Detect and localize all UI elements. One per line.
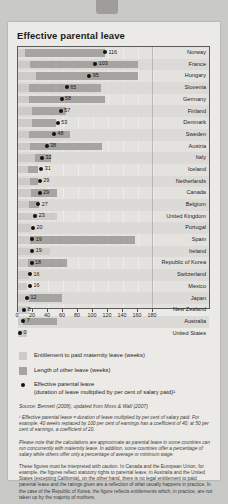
bar: [18, 143, 102, 151]
bar-segment-other-leave: [29, 131, 70, 139]
effective-leave-marker: [103, 50, 107, 54]
footnote-1: ¹ Effective parental leave = duration of…: [19, 415, 215, 434]
bar-segment-other-leave: [30, 236, 135, 244]
axis-tick-label: 60: [59, 312, 65, 318]
chart-notes: Source: Bennett (2008), updated from Mos…: [19, 403, 215, 504]
effective-leave-marker: [28, 272, 32, 276]
effective-leave-marker: [60, 97, 64, 101]
bar-segment-maternity: [18, 271, 29, 279]
axis-tick-label: 100: [88, 312, 97, 318]
bar: [18, 283, 27, 291]
axis-tick-label: 20: [29, 312, 35, 318]
effective-leave-marker: [25, 296, 29, 300]
bar: [18, 119, 56, 127]
bar: [18, 213, 57, 221]
data-value-label: 65: [70, 84, 76, 90]
data-value-label: 27: [42, 201, 48, 207]
effective-leave-marker: [31, 226, 35, 230]
effective-leave-marker: [59, 109, 63, 113]
category-label: United States: [172, 330, 206, 336]
bar-segment-maternity: [18, 259, 28, 267]
bar-segment-maternity: [18, 189, 31, 197]
data-value-label: 0: [24, 329, 27, 335]
data-value-label: 19: [36, 247, 42, 253]
effective-leave-marker: [38, 179, 42, 183]
page-top-artifact: [96, 0, 118, 14]
bar: [18, 84, 101, 92]
data-value-label: 31: [45, 165, 51, 171]
legend-dot-swatch: [19, 381, 27, 389]
bar: [18, 178, 38, 186]
data-value-label: 95: [93, 72, 99, 78]
data-value-label: 103: [99, 60, 108, 66]
bar-segment-maternity: [18, 61, 30, 69]
data-value-label: 19: [36, 236, 42, 242]
bar-segment-maternity: [18, 166, 28, 174]
bar-segment-maternity: [18, 49, 25, 57]
data-value-label: 32: [46, 154, 52, 160]
bar: [18, 224, 31, 232]
category-label-column: [152, 47, 209, 308]
page-title: Effective parental leave: [17, 30, 125, 41]
bar: [18, 166, 38, 174]
data-value-label: 23: [39, 212, 45, 218]
bar-segment-maternity: [18, 96, 29, 104]
effective-leave-marker: [28, 284, 32, 288]
axis-tick-label: 40: [44, 312, 50, 318]
bar-segment-maternity: [18, 119, 32, 127]
bar-segment-other-leave: [30, 61, 138, 69]
bar-segment-other-leave: [30, 143, 102, 151]
data-value-label: 53: [61, 119, 67, 125]
bar-segment-maternity: [18, 154, 35, 162]
axis-tick-label: 120: [103, 312, 112, 318]
legend-item: Entitlement to paid maternity leave (wee…: [19, 352, 214, 360]
data-value-label: 20: [37, 224, 43, 230]
axis-tick-label: 140: [118, 312, 127, 318]
data-value-label: 48: [58, 130, 64, 136]
bar: [18, 61, 138, 69]
bar-segment-other-leave: [32, 119, 56, 127]
data-value-label: 12: [31, 294, 37, 300]
bar-segment-other-leave: [30, 178, 38, 186]
axis-tick-label: 0: [16, 312, 19, 318]
effective-leave-marker: [38, 191, 42, 195]
data-value-label: 116: [109, 49, 118, 55]
bar-segment-maternity: [18, 143, 30, 151]
data-value-label: 18: [35, 259, 41, 265]
chart-row: 0United States: [18, 328, 209, 340]
data-value-label: 57: [64, 107, 70, 113]
note-plain: These figures must be interpreted with c…: [19, 464, 215, 502]
data-value-label: 29: [43, 189, 49, 195]
axis-tick-label: 80: [74, 312, 80, 318]
legend-item: Effective parental leave(duration of lea…: [19, 381, 214, 396]
bar: [18, 72, 138, 80]
x-axis: 020406080100120140160180: [17, 309, 210, 323]
note-italic: Please note that the calculations are ap…: [19, 440, 215, 459]
effective-leave-marker: [30, 261, 34, 265]
data-value-label: 38: [50, 142, 56, 148]
legend-dot-icon: [21, 383, 26, 388]
effective-leave-marker: [40, 156, 44, 160]
legend-color-swatch: [19, 352, 27, 360]
bar: [18, 259, 67, 267]
legend-label: Length of other leave (weeks): [34, 367, 214, 375]
bar-segment-maternity: [18, 72, 36, 80]
bar: [18, 49, 105, 57]
bar-segment-maternity: [18, 178, 30, 186]
data-value-label: 16: [34, 282, 40, 288]
data-value-label: 16: [34, 271, 40, 277]
bar-segment-other-leave: [25, 49, 105, 57]
bar: [18, 271, 29, 279]
bar-segment-other-leave: [28, 259, 67, 267]
chart-card: Effective parental leave 116Norway103Fra…: [8, 22, 220, 480]
data-value-label: 29: [43, 177, 49, 183]
effective-leave-marker: [56, 121, 60, 125]
legend-label: Effective parental leave(duration of lea…: [34, 381, 214, 396]
effective-leave-marker: [39, 167, 43, 171]
effective-leave-marker: [18, 331, 22, 335]
effective-leave-marker: [36, 202, 40, 206]
effective-leave-marker: [45, 144, 49, 148]
axis-tick-label: 180: [148, 312, 157, 318]
data-value-label: 58: [65, 95, 71, 101]
